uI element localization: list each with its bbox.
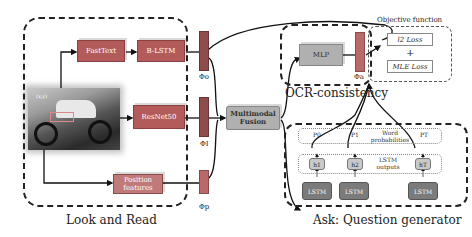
hidden-h1-label: h1 xyxy=(313,161,321,168)
input-image: (x,y) xyxy=(28,88,120,150)
rear-wheel xyxy=(88,120,112,144)
prob-pt: PT xyxy=(420,131,428,138)
phi-p-label: Φp xyxy=(199,203,209,211)
prob-p1: P1 xyxy=(351,131,359,138)
hidden-h1: h1 xyxy=(309,158,325,170)
lstm-cell-t: LSTM xyxy=(408,182,438,200)
position-features-block: Position features xyxy=(113,174,163,194)
phi-a-label: Φa xyxy=(354,73,364,81)
objective-function-title: Objective function xyxy=(377,16,442,24)
lstm-cell-2-label: LSTM xyxy=(345,188,363,195)
blstm-label: B-LSTM xyxy=(147,47,176,55)
phi-p-feature-bar xyxy=(199,170,209,194)
multimodal-fusion-label: Multimodal Fusion xyxy=(227,110,279,126)
word-probabilities-label: Word probabilities xyxy=(368,129,412,143)
mlp-label: MLP xyxy=(313,51,330,59)
prob-p0: P0 xyxy=(313,131,321,138)
lstm-cell-t-label: LSTM xyxy=(414,188,432,195)
mlp-block: MLP xyxy=(299,44,343,66)
question-generator-title: Ask: Question generator xyxy=(313,213,462,227)
hidden-ht: hT xyxy=(415,158,431,170)
fasttext-block: FastText xyxy=(77,40,125,62)
hidden-ht-label: hT xyxy=(419,161,427,168)
hidden-h2: h2 xyxy=(347,158,363,170)
architecture-diagram: Look and Read FastText B-LSTM ResNet50 P… xyxy=(0,0,472,237)
resnet-block: ResNet50 xyxy=(133,105,185,129)
position-features-label: Position features xyxy=(114,176,162,192)
text-bounding-box xyxy=(50,112,74,122)
fasttext-label: FastText xyxy=(86,47,116,55)
bbox-coordinate-label: (x,y) xyxy=(36,93,47,99)
mle-loss-box: MLE Loss xyxy=(387,60,433,73)
resnet-label: ResNet50 xyxy=(142,113,177,121)
blstm-block: B-LSTM xyxy=(137,40,185,62)
lstm-outputs-label: LSTM outputs xyxy=(368,156,408,170)
phi-o-label: Φo xyxy=(199,73,209,81)
phi-i-feature-bar xyxy=(199,97,209,137)
front-wheel xyxy=(34,122,58,146)
l2-loss-label: l2 Loss xyxy=(398,36,423,44)
plus-sign: + xyxy=(406,47,414,58)
lstm-cell-1: LSTM xyxy=(302,182,332,200)
phi-a-feature-bar xyxy=(355,32,365,72)
ocr-consistency-title: OCR-consistency xyxy=(285,86,388,100)
lstm-cell-2: LSTM xyxy=(339,182,369,200)
phi-o-feature-bar xyxy=(199,31,209,71)
hidden-h2-label: h2 xyxy=(351,161,359,168)
lstm-cell-1-label: LSTM xyxy=(308,188,326,195)
phi-i-label: ΦI xyxy=(200,140,209,148)
look-and-read-title: Look and Read xyxy=(66,213,157,227)
l2-loss-box: l2 Loss xyxy=(387,33,433,46)
multimodal-fusion-block: Multimodal Fusion xyxy=(226,106,280,130)
mle-loss-label: MLE Loss xyxy=(392,63,427,71)
